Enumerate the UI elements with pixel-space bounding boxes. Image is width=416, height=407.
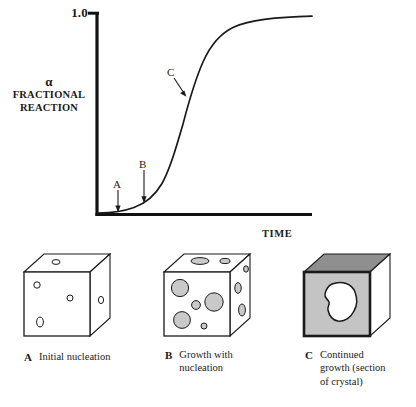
- curve-marker-a: A: [113, 178, 121, 190]
- cube-caption-b-text: Growth with nucleation: [179, 348, 232, 375]
- cube-caption-c-text: Continued growth (section of crystal): [320, 348, 386, 388]
- y-axis-title-line2: REACTION: [2, 102, 96, 114]
- cube-diagrams-row: [0, 248, 416, 358]
- y-axis-title: α FRACTIONAL REACTION: [2, 74, 96, 114]
- cube-diagram-b: [158, 248, 268, 348]
- cube-caption-c-line3: of crystal): [320, 376, 363, 387]
- cube-b-nucleus-2: [192, 301, 201, 310]
- cube-caption-c-line2: growth (section: [320, 362, 386, 373]
- kinetics-chart: 1.0 α FRACTIONAL REACTION TIME A B C: [0, 0, 416, 250]
- cube-b-nucleus-4: [174, 312, 191, 329]
- cube-caption-c: C Continued growth (section of crystal): [305, 348, 413, 388]
- y-axis-title-line1: FRACTIONAL: [2, 89, 96, 101]
- reaction-curve: [98, 16, 312, 213]
- cube-b-nucleus-side-3: [244, 266, 249, 272]
- cube-caption-a-letter: A: [24, 350, 32, 364]
- x-axis-title: TIME: [262, 228, 292, 239]
- cube-b-nucleus-3: [205, 293, 223, 311]
- cube-a-nucleus-2: [67, 295, 73, 301]
- cube-caption-a-text: Initial nucleation: [39, 350, 110, 363]
- cube-caption-b: B Growth with nucleation: [165, 348, 285, 375]
- cube-b-nucleus-side-1: [235, 283, 241, 294]
- cube-caption-b-letter: B: [165, 348, 172, 362]
- cube-caption-b-line1: Growth with: [179, 349, 232, 360]
- cube-a-nucleus-1: [34, 282, 40, 288]
- cube-b-nucleus-5: [201, 323, 207, 329]
- figure-root: 1.0 α FRACTIONAL REACTION TIME A B C: [0, 0, 416, 407]
- cube-a-nucleus-side: [98, 296, 103, 303]
- alpha-symbol: α: [2, 74, 96, 89]
- figure-bottom-caption: [8, 396, 408, 407]
- cube-caption-c-line1: Continued: [320, 349, 364, 360]
- cube-b-nucleus-top-1: [191, 258, 209, 265]
- cube-caption-c-letter: C: [305, 348, 313, 362]
- cube-a-nucleus-3: [37, 317, 44, 327]
- cube-a-nucleus-top: [52, 260, 60, 265]
- curve-marker-b: B: [139, 158, 146, 170]
- cube-b-nucleus-side-2: [239, 304, 246, 316]
- y-axis-max-label: 1.0: [48, 5, 88, 21]
- cube-b-nucleus-top-2: [220, 258, 230, 263]
- cube-diagram-c: [298, 248, 408, 348]
- chart-canvas: [0, 0, 416, 250]
- curve-marker-c: C: [167, 66, 174, 78]
- cube-caption-a: A Initial nucleation: [24, 350, 149, 364]
- cube-a-front-face: [24, 272, 90, 336]
- cube-diagram-a: [18, 248, 128, 348]
- cube-caption-b-line2: nucleation: [179, 362, 223, 373]
- annotation-arrow-c-shaft: [174, 78, 184, 93]
- annotation-arrow-c-head: [180, 90, 186, 96]
- cube-b-nucleus-1: [171, 279, 188, 296]
- cube-c-crystal-void: [325, 282, 357, 321]
